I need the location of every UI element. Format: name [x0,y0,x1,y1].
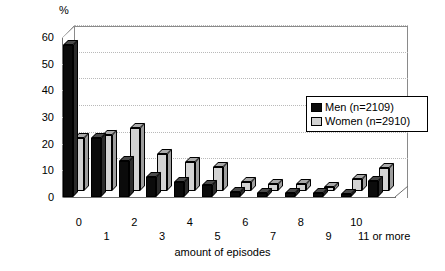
bar-side [101,133,106,197]
bar-side [389,163,394,191]
bar-side [73,40,78,197]
y-tick-label: 20 [28,139,54,150]
bar-top-cap [379,163,394,168]
bar-face [285,193,295,197]
bar-face [230,192,240,197]
y-tick-label: 60 [28,32,54,43]
x-tick-label: 11 or more [344,231,424,242]
y-tick-label: 50 [28,59,54,70]
legend-swatch-women [311,117,322,126]
bar-men-11-or-more [368,181,378,197]
bar-men-3 [146,177,156,197]
bar-side [129,156,134,197]
bar-face [341,194,351,197]
bar-face [174,182,184,197]
bar-men-7 [257,193,267,197]
bar-men-8 [285,193,295,197]
bar-men-1 [91,138,101,197]
y-tick-label: 10 [28,165,54,176]
x-tick-label: 10 [316,217,396,228]
legend-item-men: Men (n=2109) [311,100,423,114]
y-tick-label: 30 [28,112,54,123]
bar-face [368,181,378,197]
bar-men-5 [202,185,212,197]
bar-men-9 [313,193,323,197]
bar-face [146,177,156,197]
bar-side [195,156,200,191]
bar-men-6 [230,192,240,197]
bar-men-2 [119,161,129,197]
chart-canvas: % 0102030405060 01234567891011 or more a… [0,0,445,271]
bar-face [313,193,323,197]
bar-side [84,132,89,191]
bar-men-10 [341,194,351,197]
y-tick-label: 0 [28,192,54,203]
bar-side [112,130,117,191]
y-tick-label: 40 [28,85,54,96]
bar-side [140,123,145,191]
legend-label-women: Women (n=2910) [325,115,410,128]
x-axis-title: amount of episodes [0,247,445,258]
bar-face [91,138,101,197]
bar-side [167,148,172,191]
legend-item-women: Women (n=2910) [311,114,423,128]
bar-men-0 [63,45,73,197]
y-axis-unit-label: % [59,5,69,16]
legend-swatch-men [311,103,322,112]
bar-face [63,45,73,197]
legend-label-men: Men (n=2109) [325,101,394,114]
bar-face [202,185,212,197]
bar-face [119,161,129,197]
bar-men-4 [174,182,184,197]
chart-legend: Men (n=2109) Women (n=2910) [306,96,428,132]
bar-face [257,193,267,197]
